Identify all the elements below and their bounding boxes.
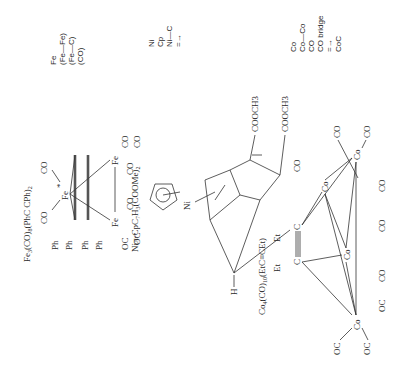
co-atom: Co: [342, 249, 352, 260]
ni-atom: Ni: [182, 201, 192, 210]
co-legend-line-1: Co: [289, 41, 298, 52]
co-atom: Co: [320, 181, 330, 192]
ph-label: Ph: [50, 240, 60, 250]
ni-legend-line-2: Cp: [156, 36, 165, 47]
oc-label: OC: [120, 237, 130, 250]
co-legend-line-3: CO: [307, 40, 316, 52]
et-label: Et: [272, 264, 282, 272]
fe3-title: Fe3(CO)8(PhC CPh)2: [22, 186, 33, 262]
et-label: Et: [272, 234, 282, 242]
ph-label: Ph: [94, 240, 104, 250]
fe3-structure: Fe3(CO)8(PhC CPh)2 CO CO Fe * Ph Ph Ph P…: [22, 135, 142, 262]
fe-legend-line-2: (Fe—Fe): [58, 33, 67, 65]
ni-legend-line-3: Ni—C: [165, 25, 174, 47]
cyclopentadienyl-ring: [150, 184, 180, 210]
co-legend: Co Co—Co CO CO bridge =→ CoC: [289, 15, 343, 52]
rotated-figure-page: Fe (Fe—Fe) (Fe—C) (CO) Ni Cp Ni—C =→ Co …: [0, 0, 397, 370]
co-atom: Co: [352, 149, 362, 160]
co-label: CO: [292, 159, 302, 172]
ni-title: Niπ-CpC7H3(COOMe)2: [130, 166, 141, 252]
co-label: CO: [120, 135, 130, 148]
ni-legend-line-4: =→: [174, 34, 183, 47]
fe-mark: *: [55, 183, 65, 188]
figure-canvas: Fe (Fe—Fe) (Fe—C) (CO) Ni Cp Ni—C =→ Co …: [0, 0, 397, 370]
h-atom: H: [229, 288, 239, 295]
co-legend-line-5: =→: [325, 39, 334, 52]
c-atom: C: [292, 224, 302, 230]
cooch3-label: COOCH3: [250, 95, 260, 132]
co-label: CO: [377, 269, 387, 282]
co-label: CO: [332, 125, 342, 138]
co4-structure: Co4(CO)10(EtC≡CEt) Et Et C C Co Co Co Co…: [257, 125, 387, 355]
fe-legend-line-3: (Fe—C): [67, 36, 76, 65]
co-legend-line-4: CO bridge: [316, 15, 325, 52]
fe-atom: Fe: [110, 218, 120, 227]
co-atom: Co: [352, 319, 362, 330]
co-label: CO: [362, 125, 372, 138]
ni-legend: Ni Cp Ni—C =→: [147, 25, 183, 47]
oc-label: OC: [362, 342, 372, 355]
co-label: CO: [39, 211, 49, 224]
ph-label: Ph: [64, 240, 74, 250]
oc-label: OC: [377, 299, 387, 312]
fe-legend-line-4: (CO): [76, 47, 85, 65]
co4-title: Co4(CO)10(EtC≡CEt): [257, 238, 268, 315]
c-atom: C: [292, 259, 302, 265]
fe-legend-line-1: Fe: [49, 55, 58, 65]
co-label: CO: [39, 161, 49, 174]
fe-legend: Fe (Fe—Fe) (Fe—C) (CO): [49, 33, 85, 65]
oc-label: OC: [332, 342, 342, 355]
fe-atom: Fe: [110, 156, 120, 165]
ni-legend-line-1: Ni: [147, 39, 156, 47]
co-label: CO: [132, 135, 142, 148]
co-legend-line-2: Co—Co: [298, 23, 307, 52]
ph-label: Ph: [80, 240, 90, 250]
fe-atom: Fe: [60, 191, 70, 200]
co-legend-line-6: CoC: [334, 36, 343, 52]
cooch3-label: COOCH3: [280, 95, 290, 132]
co-label: CO: [377, 179, 387, 192]
co-label: CO: [377, 219, 387, 232]
